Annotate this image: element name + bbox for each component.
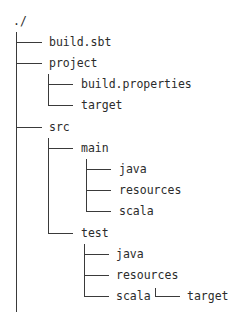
tree-node-test[interactable]: test (81, 226, 109, 240)
tree-node-main[interactable]: main (81, 141, 109, 155)
tree-connector (16, 63, 42, 64)
tree-connector (155, 296, 180, 297)
tree-connector (48, 138, 49, 233)
tree-connector (86, 159, 87, 211)
tree-node-test-scala[interactable]: scala (116, 289, 151, 303)
tree-node-src[interactable]: src (49, 120, 70, 134)
tree-connector (16, 127, 42, 128)
tree-connector (155, 288, 156, 296)
tree-node-project-target[interactable]: target (81, 98, 123, 112)
tree-node-test-java[interactable]: java (116, 247, 144, 261)
tree-connector (86, 169, 111, 170)
tree-node-target[interactable]: target (187, 289, 229, 303)
tree-connector (48, 105, 73, 106)
tree-node-main-java[interactable]: java (119, 162, 147, 176)
tree-node-main-scala[interactable]: scala (119, 204, 154, 218)
tree-node-project[interactable]: project (49, 56, 97, 70)
tree-connector (48, 233, 73, 234)
tree-connector (86, 190, 111, 191)
tree-connector (16, 32, 17, 312)
tree-connector (84, 244, 85, 296)
directory-tree: ./ build.sbt project build.properties ta… (0, 0, 239, 322)
tree-node-build-sbt[interactable]: build.sbt (49, 35, 111, 49)
tree-connector (84, 296, 109, 297)
tree-root: ./ (13, 14, 27, 28)
tree-connector (84, 275, 109, 276)
tree-node-test-resources[interactable]: resources (116, 268, 178, 282)
tree-connector (86, 211, 111, 212)
tree-connector (48, 148, 73, 149)
tree-connector (84, 254, 109, 255)
tree-connector (48, 84, 73, 85)
tree-connector (16, 42, 42, 43)
tree-node-main-resources[interactable]: resources (119, 183, 181, 197)
tree-connector (48, 74, 49, 105)
tree-node-build-properties[interactable]: build.properties (81, 77, 192, 91)
